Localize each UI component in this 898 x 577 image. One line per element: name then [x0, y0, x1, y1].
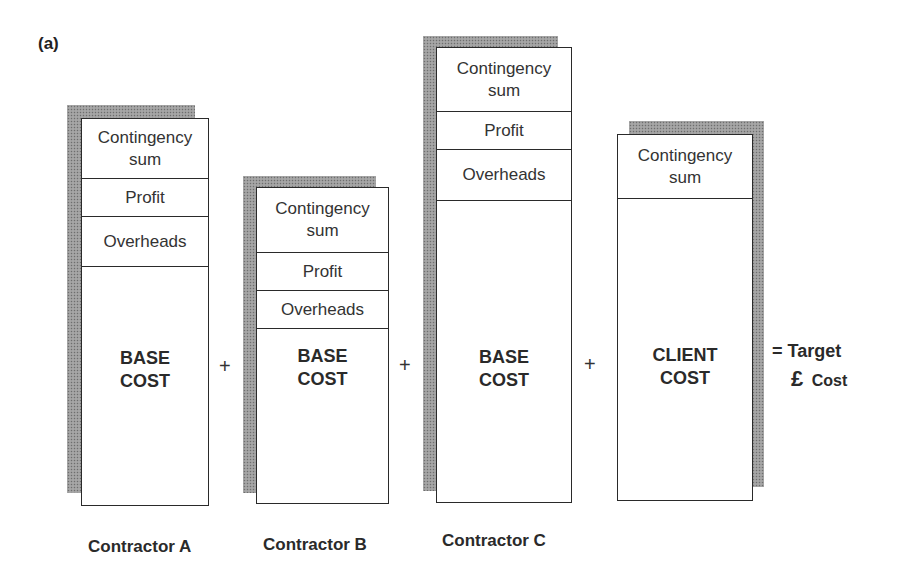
contractor-b-caption: Contractor B [263, 535, 367, 555]
contractor-c-profit: Profit [437, 112, 571, 150]
contractor-c-stack: Contingency sum Profit Overheads BASE CO… [436, 47, 572, 503]
plus-sign-2: + [399, 354, 411, 377]
contractor-a-contingency: Contingency sum [82, 119, 208, 179]
client-stack: Contingency sum CLIENT COST [617, 134, 753, 501]
contractor-c-contingency: Contingency sum [437, 48, 571, 112]
client-contingency: Contingency sum [618, 135, 752, 199]
contractor-a-profit: Profit [82, 179, 208, 217]
pound-sign-icon: £ [791, 366, 803, 391]
plus-sign-3: + [584, 353, 596, 376]
panel-label: (a) [38, 34, 59, 54]
contractor-c-base-cost: BASE COST [437, 346, 571, 392]
contractor-a-caption: Contractor A [88, 537, 191, 557]
contractor-b-overheads: Overheads [257, 291, 388, 329]
target-cost-label: = Target [772, 341, 841, 362]
contractor-c-overheads: Overheads [437, 150, 571, 201]
contractor-b-stack: Contingency sum Profit Overheads BASE CO… [256, 187, 389, 504]
contractor-b-base-cost: BASE COST [257, 345, 388, 391]
equals-sign: = [772, 341, 783, 361]
contractor-a-overheads: Overheads [82, 217, 208, 267]
contractor-c-caption: Contractor C [442, 531, 546, 551]
plus-sign-1: + [219, 355, 231, 378]
contractor-a-base-cost: BASE COST [82, 347, 208, 393]
target-cost-currency-row: £ Cost [791, 366, 847, 392]
contractor-b-contingency: Contingency sum [257, 188, 388, 253]
target-word: Target [788, 341, 842, 361]
contractor-a-stack: Contingency sum Profit Overheads BASE CO… [81, 118, 209, 506]
client-cost: CLIENT COST [618, 344, 752, 390]
contractor-b-profit: Profit [257, 253, 388, 291]
cost-word: Cost [812, 372, 848, 389]
